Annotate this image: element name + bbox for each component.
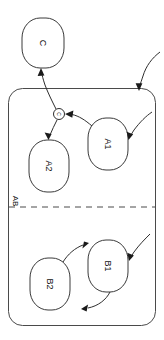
state-b2-label-group: B2 [45,278,55,289]
composite-state-label: AB [11,196,20,207]
transition-b2-to-b1-line[interactable] [63,245,83,262]
transition-junction-to-a2-line[interactable] [50,120,57,135]
state-a2-label: A2 [44,160,54,171]
state-b1-label: B1 [103,260,113,271]
transition-entry-b1-line[interactable] [131,234,151,258]
state-b2-label: B2 [45,278,55,289]
transition-a1-to-junction-line[interactable] [72,115,92,127]
state-a2-label-group: A2 [44,160,54,171]
transition-b2-to-b1-arrowhead [82,242,89,249]
state-a1-label-group: A1 [103,138,113,149]
diagram-canvas: AB C A1 A2 B1 B2 C [0,0,164,340]
transition-b1-to-b2-line[interactable] [88,292,110,308]
state-c-label-group: C [38,40,48,47]
transition-junction-to-c-arrowhead [38,68,45,76]
state-a1-label: A1 [103,138,113,149]
junction-label-group: C [56,112,62,116]
transition-entry-a1-line[interactable] [130,112,152,137]
composite-state-label-group: AB [11,196,20,207]
state-c-label: C [38,40,48,47]
statechart-svg: AB C A1 A2 B1 B2 C [0,0,164,340]
transition-entry-ab-line[interactable] [139,52,160,88]
junction-label: C [56,112,62,116]
transition-a1-to-junction-arrowhead [65,111,73,118]
transition-junction-to-c-line[interactable] [42,72,57,109]
state-b1-label-group: B1 [103,260,113,271]
transition-entry-ab-arrowhead [136,83,143,91]
transition-b1-to-b2-arrowhead [81,305,88,312]
